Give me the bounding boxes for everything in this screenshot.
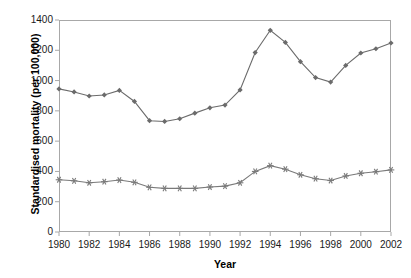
data-point-marker-asterisk: [56, 177, 63, 183]
data-point-marker-asterisk: [176, 186, 183, 192]
data-point-marker-diamond: [87, 93, 92, 98]
data-point-marker-asterisk: [207, 184, 214, 190]
data-point-marker-diamond: [102, 92, 107, 97]
data-point-marker-diamond: [373, 46, 378, 51]
data-point-marker-diamond: [71, 89, 76, 94]
data-point-marker-asterisk: [267, 163, 274, 169]
axis-ticks-group: [55, 20, 391, 236]
data-point-marker-asterisk: [192, 186, 199, 192]
data-point-marker-asterisk: [161, 186, 168, 192]
chart-container: 0200400600800100012001400 19801982198419…: [0, 0, 411, 278]
series-line-lower-series: [59, 166, 391, 189]
data-point-marker-asterisk: [342, 173, 349, 179]
data-point-marker-diamond: [388, 40, 393, 45]
data-point-marker-diamond: [177, 116, 182, 121]
data-point-marker-asterisk: [327, 178, 334, 184]
data-point-marker-asterisk: [146, 184, 153, 190]
data-point-marker-asterisk: [388, 167, 395, 173]
data-point-marker-asterisk: [373, 169, 380, 175]
data-point-marker-diamond: [207, 105, 212, 110]
data-point-marker-asterisk: [222, 183, 229, 189]
data-point-marker-asterisk: [358, 170, 365, 176]
x-axis-title: Year: [59, 258, 391, 270]
data-series-group: [56, 28, 395, 192]
data-point-marker-diamond: [192, 111, 197, 116]
data-point-marker-asterisk: [71, 178, 78, 184]
data-point-marker-diamond: [162, 119, 167, 124]
data-point-marker-asterisk: [101, 179, 108, 185]
y-axis-title: Standardised mortality (per 100,000): [29, 19, 41, 229]
data-point-marker-asterisk: [282, 166, 289, 172]
data-point-marker-diamond: [56, 86, 61, 91]
data-point-marker-asterisk: [86, 180, 93, 186]
data-point-marker-asterisk: [297, 172, 304, 178]
data-point-marker-asterisk: [312, 176, 319, 182]
data-point-marker-asterisk: [131, 179, 138, 185]
chart-svg-layer: [0, 0, 411, 278]
data-point-marker-asterisk: [116, 177, 123, 183]
series-line-upper-series: [59, 30, 391, 121]
x-tick-label: 2002: [373, 240, 409, 250]
